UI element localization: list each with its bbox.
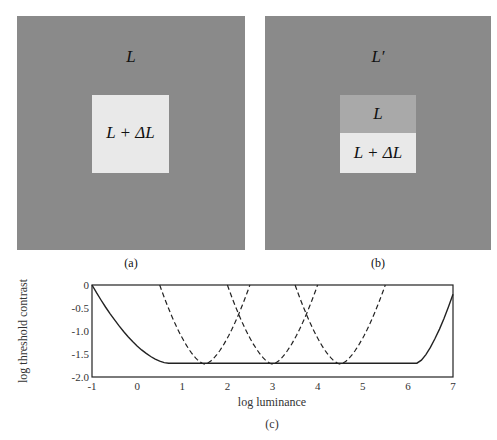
y-axis-label: log threshold contrast [16,278,30,383]
y-tick-label: -1.0 [72,325,90,337]
x-axis-label: log luminance [238,395,306,409]
panel-b-top-label: L [340,104,416,124]
panel-b-background-label: L′ [265,47,491,67]
dashed-curve [227,285,317,364]
x-tick-label: 1 [180,380,186,392]
panel-b: L′ L L + ΔL [265,16,491,250]
x-tick-label: 0 [134,380,140,392]
y-tick-label: -0.5 [72,302,90,314]
y-tick-labels: 0-0.5-1.0-1.5-2.0 [72,279,90,383]
x-tick-label: 5 [360,380,366,392]
x-tick-label: 3 [270,380,276,392]
panel-a: L L + ΔL [17,16,245,250]
panel-b-top-square: L [340,95,416,133]
panel-a-target-square: L + ΔL [92,95,169,173]
chart-caption: (c) [265,417,278,431]
panel-a-background-label: L [17,47,245,67]
panel-b-bottom-label: L + ΔL [340,143,416,163]
dashed-curve [160,285,250,364]
y-tick-label: 0 [84,279,90,291]
x-tick-label: 7 [450,380,456,392]
x-tick-labels: -101234567 [87,380,456,392]
x-tick-label: 4 [315,380,321,392]
panel-a-target-label: L + ΔL [92,123,169,143]
dashed-curve [295,285,385,364]
chart-curves [92,285,453,364]
solid-envelope-curve [92,285,453,363]
x-tick-label: 6 [405,380,411,392]
y-tick-label: -2.0 [72,371,90,383]
x-tick-label: 2 [225,380,231,392]
panel-b-bottom-square: L + ΔL [340,133,416,173]
threshold-chart: -101234567 0-0.5-1.0-1.5-2.0 log luminan… [0,250,497,440]
y-tick-label: -1.5 [72,348,90,360]
